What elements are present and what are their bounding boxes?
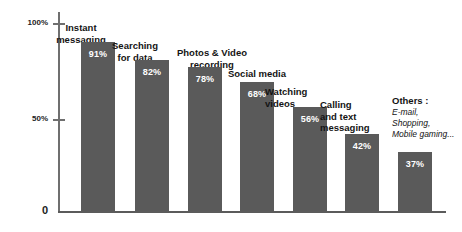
y-tick-label-0: 0 <box>4 204 48 216</box>
caption-sub-1: E-mail, <box>392 107 462 118</box>
bar-chart: Subject percentages 100% 50% 0 Instant m… <box>0 0 462 232</box>
caption-line-1: Calling <box>320 99 352 110</box>
bar-photos-video-recording: 78% <box>188 67 222 211</box>
bar-value-others: 37% <box>398 159 432 169</box>
caption-line-1: Social media <box>228 68 286 79</box>
y-tick-50 <box>53 119 65 121</box>
bar-others: 37% <box>398 152 432 211</box>
caption-line-2: videos <box>265 98 295 109</box>
caption-line-1: Instant <box>65 22 96 33</box>
bar-caption-social-media: Social media <box>214 68 300 80</box>
bar-instant-messaging: 91% <box>81 42 115 211</box>
bar-value-calling-and-text-messaging: 42% <box>345 141 379 151</box>
bar-calling-and-text-messaging: 42% <box>345 134 379 211</box>
x-axis-line <box>58 211 446 213</box>
caption-line-1: Others : <box>392 95 428 106</box>
caption-sub-2: Shopping, <box>392 118 462 129</box>
caption-line-2: and text <box>320 111 356 122</box>
caption-line-1: Searching <box>112 40 158 51</box>
caption-line-3: messaging <box>320 122 370 133</box>
caption-line-1: Photos & Video <box>177 47 247 58</box>
caption-sub-3: Mobile gaming... <box>392 129 462 140</box>
caption-line-1: Watching <box>265 86 307 97</box>
bar-caption-calling-and-text-messaging: Calling and text messaging <box>320 99 386 134</box>
bar-caption-others: Others : E-mail, Shopping, Mobile gaming… <box>392 95 462 140</box>
bar-searching-for-data: 82% <box>135 60 169 211</box>
y-tick-label-50: 50% <box>4 114 48 123</box>
